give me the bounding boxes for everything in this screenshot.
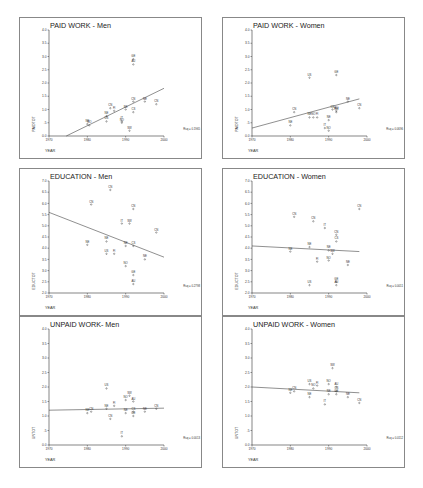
- data-point: CN: [292, 386, 296, 392]
- data-point: NE: [143, 407, 147, 413]
- data-point: NE: [288, 120, 292, 126]
- svg-text:SW: SW: [330, 363, 335, 367]
- svg-text:1.5: 1.5: [42, 400, 47, 404]
- chart-title: PAID WORK - Women: [253, 21, 325, 30]
- data-point: NE: [308, 392, 312, 398]
- data-point: NE: [346, 260, 350, 266]
- svg-text:1970: 1970: [45, 447, 52, 451]
- data-point: US: [105, 249, 109, 255]
- r-squared-label: Rsq = 0.0011: [386, 284, 403, 288]
- svg-text:1980: 1980: [287, 295, 294, 299]
- svg-text:1.5: 1.5: [42, 94, 47, 98]
- svg-text:2000: 2000: [160, 447, 167, 451]
- svg-text:US: US: [308, 73, 312, 77]
- svg-text:.5: .5: [44, 429, 47, 433]
- data-point: NE: [143, 254, 147, 260]
- scatter-plot: EDUCATION - Women2.02.53.03.54.04.55.05.…: [223, 169, 406, 317]
- svg-text:IT: IT: [121, 116, 124, 120]
- svg-text:NO: NO: [327, 126, 332, 130]
- svg-text:3.0: 3.0: [245, 356, 250, 360]
- svg-text:NE: NE: [124, 241, 128, 245]
- svg-text:1990: 1990: [122, 295, 129, 299]
- svg-text:NO: NO: [124, 261, 129, 265]
- svg-text:GE: GE: [131, 270, 135, 274]
- svg-text:NE: NE: [124, 105, 128, 109]
- y-axis-label: UNTOT: [235, 426, 239, 439]
- svg-text:CN: CN: [108, 185, 112, 189]
- svg-text:CN: CN: [357, 204, 361, 208]
- svg-text:SW: SW: [127, 391, 132, 395]
- svg-text:3.5: 3.5: [245, 258, 250, 262]
- svg-text:2.0: 2.0: [245, 385, 250, 389]
- data-point: CN: [292, 212, 296, 218]
- chart-panel: PAID WORK - Men0.0.51.01.52.02.53.03.54.…: [19, 17, 202, 159]
- svg-text:CN: CN: [108, 414, 112, 418]
- chart-panel: EDUCATION - Women2.02.53.03.54.04.55.05.…: [222, 168, 405, 316]
- svg-text:3.5: 3.5: [42, 342, 47, 346]
- svg-text:1970: 1970: [248, 295, 255, 299]
- svg-text:NE: NE: [288, 247, 292, 251]
- svg-text:1990: 1990: [122, 138, 129, 142]
- svg-text:SW: SW: [127, 219, 132, 223]
- svg-text:CN: CN: [292, 107, 296, 111]
- scatter-plot: EDUCATION - Men2.02.53.03.54.04.55.05.56…: [20, 169, 203, 317]
- data-point: NE: [327, 389, 331, 395]
- svg-text:2.5: 2.5: [42, 371, 47, 375]
- svg-text:6.5: 6.5: [245, 190, 250, 194]
- svg-text:4.0: 4.0: [42, 327, 47, 331]
- data-point: NE: [124, 241, 128, 247]
- svg-text:.5: .5: [247, 429, 250, 433]
- chart-panel: UNPAID WORK - Women0.0.51.01.52.02.53.03…: [222, 316, 405, 468]
- svg-text:NE: NE: [143, 407, 147, 411]
- data-point: AU: [131, 279, 135, 285]
- svg-text:FI: FI: [316, 257, 319, 261]
- data-point: NE: [327, 115, 331, 121]
- data-point: GE: [131, 270, 135, 276]
- svg-text:.5: .5: [247, 121, 250, 125]
- svg-text:1980: 1980: [84, 295, 91, 299]
- svg-text:CN: CN: [154, 404, 158, 408]
- svg-text:7.0: 7.0: [245, 179, 250, 183]
- chart-title: UNPAID WORK- Men: [50, 320, 119, 329]
- data-point: CN: [334, 230, 338, 236]
- chart-title: EDUCATION - Women: [253, 172, 326, 181]
- data-point: NO: [327, 256, 332, 262]
- x-axis-label: YEAR: [248, 149, 259, 153]
- data-point: CN: [357, 103, 361, 109]
- svg-text:2.0: 2.0: [245, 81, 250, 85]
- chart-title: UNPAID WORK - Women: [253, 320, 335, 329]
- svg-text:2000: 2000: [363, 447, 370, 451]
- svg-text:NE: NE: [143, 254, 147, 258]
- data-point: SW: [330, 363, 335, 369]
- data-point: SW: [330, 249, 335, 255]
- svg-text:1970: 1970: [45, 138, 52, 142]
- svg-text:4.0: 4.0: [245, 246, 250, 250]
- svg-text:FI: FI: [113, 401, 116, 405]
- svg-text:NO: NO: [327, 256, 332, 260]
- x-axis-label: YEAR: [248, 458, 259, 462]
- data-point: NO: [327, 379, 332, 385]
- svg-text:NO: NO: [124, 395, 129, 399]
- r-squared-label: Rsq = 0.0013: [183, 436, 200, 440]
- chart-title: EDUCATION - Men: [50, 172, 112, 181]
- svg-text:1980: 1980: [84, 447, 91, 451]
- svg-text:IT: IT: [324, 223, 327, 227]
- svg-text:2.5: 2.5: [42, 68, 47, 72]
- data-point: IT: [121, 431, 124, 437]
- svg-text:4.0: 4.0: [42, 28, 47, 32]
- svg-text:2.5: 2.5: [42, 280, 47, 284]
- svg-text:2.5: 2.5: [245, 68, 250, 72]
- x-axis-label: YEAR: [45, 458, 56, 462]
- svg-text:GE: GE: [334, 389, 338, 393]
- svg-text:NE: NE: [85, 240, 89, 244]
- svg-text:NE: NE: [327, 115, 331, 119]
- svg-text:IT: IT: [121, 219, 124, 223]
- chart-panel: PAID WORK - Women0.0.51.01.52.02.53.03.5…: [222, 17, 405, 159]
- svg-text:NE: NE: [124, 408, 128, 412]
- svg-text:2.5: 2.5: [245, 371, 250, 375]
- chart-title: PAID WORK - Men: [50, 21, 111, 30]
- data-point: CN: [89, 200, 93, 206]
- svg-text:2000: 2000: [363, 138, 370, 142]
- data-point: CN: [108, 103, 112, 109]
- data-point: CN: [311, 216, 315, 222]
